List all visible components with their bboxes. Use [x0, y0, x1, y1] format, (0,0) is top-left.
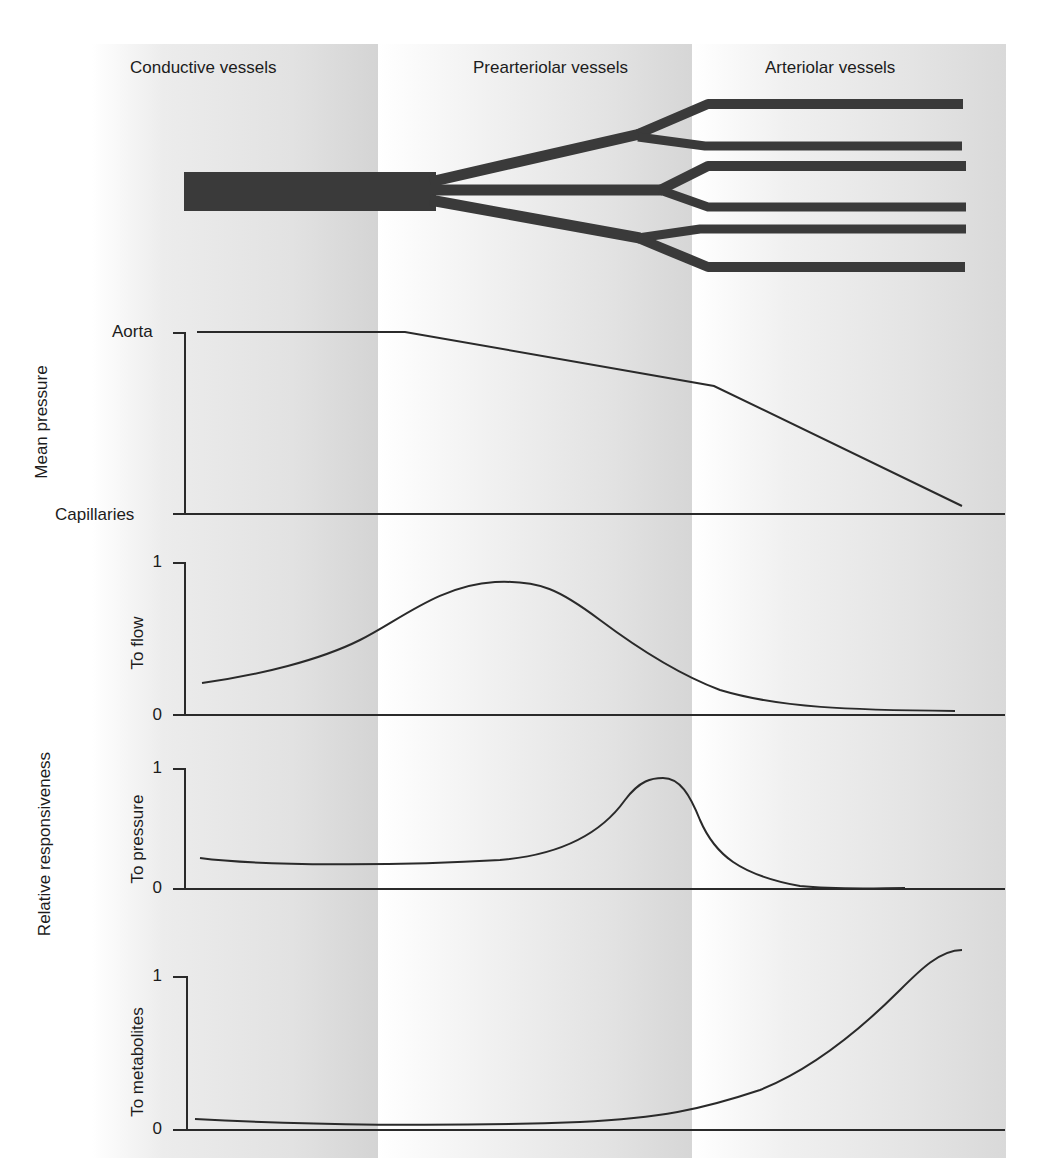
- metabolites-tick-1: 1: [132, 966, 162, 986]
- flow-curve: [202, 582, 955, 711]
- aorta-tick-label: Aorta: [112, 322, 153, 342]
- pressure-y-axis: [173, 333, 185, 514]
- flow-tick-0: 0: [132, 705, 162, 725]
- mean-pressure-panel: [173, 332, 1005, 514]
- capillaries-tick-label: Capillaries: [55, 505, 134, 525]
- mean-pressure-line: [197, 332, 962, 506]
- aorta-trunk: [184, 172, 436, 211]
- metabolites-curve: [195, 950, 962, 1125]
- pressure-responsiveness-panel: [173, 769, 1005, 889]
- mean-pressure-axis-label: Mean pressure: [32, 362, 52, 482]
- metabolites-axis-label: To metabolites: [128, 997, 148, 1127]
- pressure-responsiveness-curve: [200, 778, 905, 889]
- pressure-tick-1: 1: [132, 758, 162, 778]
- flow-panel: [173, 563, 1005, 715]
- relative-responsiveness-axis-label: Relative responsiveness: [35, 744, 55, 944]
- pressure-axis-label: To pressure: [128, 784, 148, 894]
- flow-tick-1: 1: [132, 552, 162, 572]
- vascular-responsiveness-figure: Conductive vessels Prearteriolar vessels…: [0, 0, 1041, 1158]
- flow-axis-label: To flow: [128, 603, 148, 683]
- vessel-tree-diagram: [184, 104, 966, 267]
- metabolites-panel: [173, 950, 1005, 1130]
